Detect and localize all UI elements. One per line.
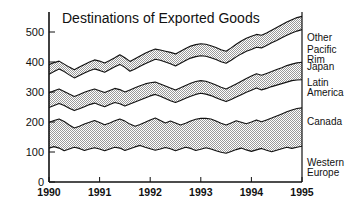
legend-label-europe: Europe — [307, 167, 340, 178]
x-tick-label: 1990 — [37, 186, 61, 198]
legend-label-america: America — [307, 87, 344, 98]
y-tick-label: 100 — [26, 146, 44, 158]
y-tick-label: 500 — [26, 26, 44, 38]
chart-container: 0100200300400500 19901991199219931994199… — [0, 0, 362, 211]
x-tick-label: 1995 — [290, 186, 314, 198]
legend-label-japan: Japan — [307, 61, 334, 72]
legend-label-canada: Canada — [307, 116, 342, 127]
x-tick-label: 1994 — [240, 186, 264, 198]
y-tick-label: 300 — [26, 86, 44, 98]
legend-label-other: Other — [307, 32, 333, 43]
x-tick-label: 1992 — [139, 186, 163, 198]
page-title: Destinations of Exported Goods — [62, 10, 260, 26]
x-tick-label: 1991 — [88, 186, 112, 198]
x-tick-label: 1993 — [189, 186, 213, 198]
y-tick-label: 200 — [26, 116, 44, 128]
exported-goods-area-chart: 0100200300400500 19901991199219931994199… — [0, 0, 362, 211]
y-tick-label: 400 — [26, 56, 44, 68]
